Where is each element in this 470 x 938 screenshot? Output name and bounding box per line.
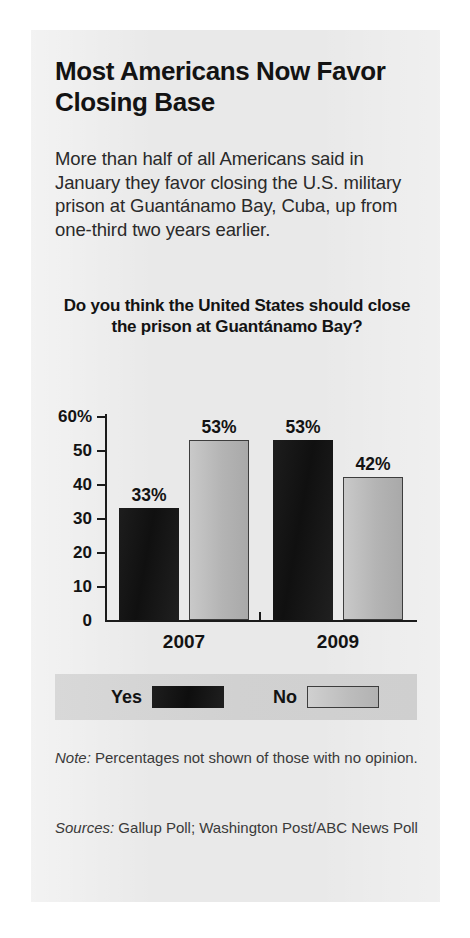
- bar-2007-yes: [119, 508, 179, 620]
- y-axis-tick: [97, 416, 105, 418]
- legend-swatch-no: [307, 686, 379, 708]
- y-axis-label: 30: [32, 509, 92, 529]
- bar-2007-no: [189, 440, 249, 620]
- plot-area: [105, 416, 417, 620]
- y-axis-label: 60%: [32, 407, 92, 427]
- page-title: Most Americans Now Favor Closing Base: [55, 56, 415, 117]
- x-axis-category-2009: 2009: [317, 631, 359, 653]
- y-axis-label: 10: [32, 577, 92, 597]
- legend-label-yes: Yes: [111, 687, 142, 708]
- note-lead: Note:: [55, 749, 91, 766]
- x-axis-line: [105, 620, 417, 622]
- bar-2009-yes: [273, 440, 333, 620]
- description-text: More than half of all Americans said in …: [55, 147, 423, 242]
- sources-footnote: Sources: Gallup Poll; Washington Post/AB…: [55, 818, 427, 838]
- y-axis-label: 50: [32, 441, 92, 461]
- y-axis-tick: [97, 586, 105, 588]
- note-footnote: Note: Percentages not shown of those wit…: [55, 748, 427, 768]
- y-axis-label: 40: [32, 475, 92, 495]
- bar-2009-no: [343, 477, 403, 620]
- y-axis-tick: [97, 552, 105, 554]
- legend-item-no: No: [273, 674, 379, 720]
- bar-value-2007-yes: 33%: [131, 485, 166, 506]
- chart-legend: Yes No: [55, 674, 417, 720]
- bar-value-2009-yes: 53%: [285, 417, 320, 438]
- x-axis-category-2007: 2007: [163, 631, 205, 653]
- legend-item-yes: Yes: [111, 674, 224, 720]
- infographic-panel: Most Americans Now Favor Closing Base Mo…: [31, 30, 440, 902]
- y-axis-tick: [97, 484, 105, 486]
- bar-value-2009-no: 42%: [355, 454, 390, 475]
- chart-question-title: Do you think the United States should cl…: [51, 295, 423, 338]
- y-axis-tick: [97, 518, 105, 520]
- sources-text: Gallup Poll; Washington Post/ABC News Po…: [114, 819, 418, 836]
- y-axis-label: 20: [32, 543, 92, 563]
- bar-chart: 60% 50 40 30 20 10 0 33% 53% 53% 42% 200…: [31, 375, 440, 665]
- note-text: Percentages not shown of those with no o…: [91, 749, 418, 766]
- sources-lead: Sources:: [55, 819, 114, 836]
- legend-label-no: No: [273, 687, 297, 708]
- legend-swatch-yes: [152, 686, 224, 708]
- y-axis-tick: [97, 450, 105, 452]
- y-axis-label: 0: [32, 611, 92, 631]
- bar-value-2007-no: 53%: [201, 417, 236, 438]
